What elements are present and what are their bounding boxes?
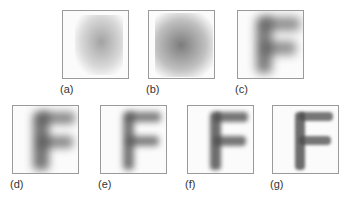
panel-g-image bbox=[272, 105, 339, 174]
panel-a-image bbox=[62, 10, 129, 79]
panel-b-image bbox=[148, 10, 215, 79]
panel-c-label: (c) bbox=[235, 83, 248, 95]
panel-b-label: (b) bbox=[146, 83, 159, 95]
panel-e-label: (e) bbox=[98, 178, 111, 190]
panel-e-image bbox=[100, 105, 167, 174]
panel-d-label: (d) bbox=[10, 178, 23, 190]
panel-d-image bbox=[12, 105, 79, 174]
panel-g-label: (g) bbox=[270, 178, 283, 190]
panel-a-label: (a) bbox=[60, 83, 73, 95]
panel-f-image bbox=[187, 105, 254, 174]
panel-f-label: (f) bbox=[185, 178, 195, 190]
panel-c-image bbox=[237, 10, 304, 79]
